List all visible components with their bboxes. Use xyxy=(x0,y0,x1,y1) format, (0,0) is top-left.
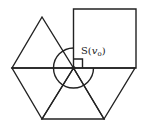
triangle-face-bottom-left xyxy=(12,68,74,119)
triangle-face-bottom xyxy=(42,68,104,119)
angle-sum-label: S(vo) xyxy=(81,45,106,58)
label-suffix: ) xyxy=(102,45,106,56)
label-prefix: S( xyxy=(81,45,92,56)
triangle-face-top-left xyxy=(12,17,74,68)
faces-group xyxy=(12,9,136,119)
triangle-face-bottom-right xyxy=(74,68,136,119)
diagram-canvas: S(vo) xyxy=(0,0,143,128)
central-vertex-dot xyxy=(72,66,76,70)
